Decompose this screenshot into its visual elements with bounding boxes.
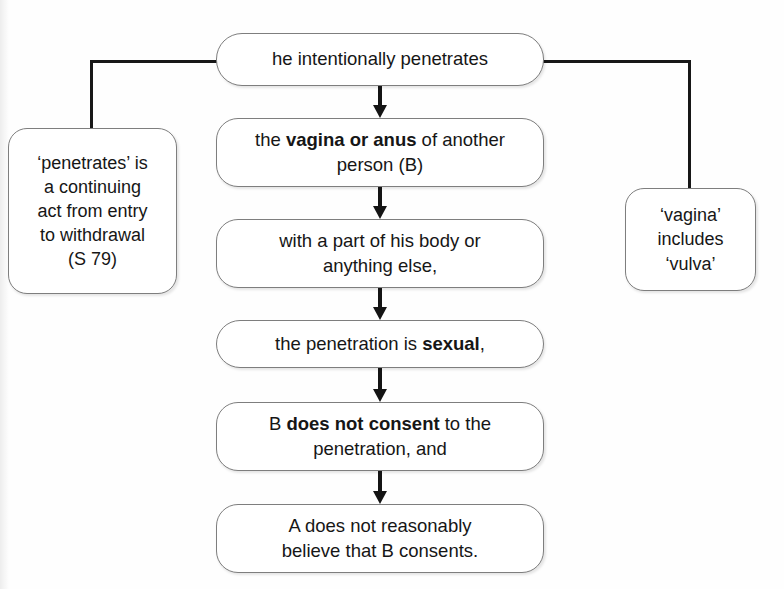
- connector-penetrates-to-right-note-horizontal: [541, 60, 691, 63]
- arrow-shaft: [378, 368, 381, 389]
- note-left-line-1: ‘penetrates’ is: [37, 153, 147, 173]
- node-with-a-part-of-his-body[interactable]: with a part of his body oranything else,: [216, 219, 544, 288]
- node-consent-line1-post: to the: [440, 413, 491, 434]
- note-left-label: ‘penetrates’ isa continuingact from entr…: [19, 151, 166, 272]
- arrow-sexual-to-consent: [373, 368, 387, 402]
- arrow-consent-to-belief: [373, 471, 387, 504]
- arrow-shaft: [378, 288, 381, 307]
- node-consent-line1-bold: does not consent: [286, 413, 439, 434]
- node-penetrates-label: he intentionally penetrates: [227, 47, 533, 71]
- arrow-head-down-icon: [373, 105, 387, 118]
- arrow-shaft: [378, 86, 381, 105]
- note-left-line-5: (S 79): [68, 249, 117, 269]
- note-vagina-includes-vulva[interactable]: ‘vagina’includes‘vulva’: [625, 188, 756, 291]
- note-right-line-3: ‘vulva’: [665, 254, 715, 274]
- node-consent-line1-pre: B: [269, 413, 286, 434]
- clipped-caption-text: [200, 0, 580, 4]
- arrow-penetrates-to-vagina-anus: [373, 86, 387, 118]
- arrow-head-down-icon: [373, 389, 387, 402]
- note-left-line-4: to withdrawal: [40, 225, 145, 245]
- note-left-line-3: act from entry: [37, 201, 147, 221]
- node-vagina-anus-label: the vagina or anus of anotherperson (B): [227, 128, 533, 176]
- node-he-intentionally-penetrates[interactable]: he intentionally penetrates: [216, 33, 544, 86]
- arrow-head-down-icon: [373, 206, 387, 219]
- page-gutter-shadow: [0, 0, 9, 589]
- note-right-line-1: ‘vagina’: [660, 205, 721, 225]
- node-consent-label: B does not consent to thepenetration, an…: [227, 412, 533, 460]
- flowchart-canvas: he intentionally penetrates the vagina o…: [0, 0, 784, 589]
- connector-penetrates-to-right-note-vertical: [688, 60, 691, 190]
- node-body-part-label: with a part of his body oranything else,: [227, 229, 533, 277]
- node-vagina-anus-line1-post: of another: [416, 129, 504, 150]
- note-penetrates-continuing-act[interactable]: ‘penetrates’ isa continuingact from entr…: [8, 128, 177, 294]
- node-consent-line2: penetration, and: [313, 438, 447, 459]
- note-left-line-2: a continuing: [44, 177, 141, 197]
- node-body-part-line1: with a part of his body or: [279, 230, 481, 251]
- arrow-body-part-to-sexual: [373, 288, 387, 320]
- node-sexual-line1-post: ,: [480, 333, 485, 354]
- arrow-head-down-icon: [373, 491, 387, 504]
- node-sexual-line1-pre: the penetration is: [275, 333, 422, 354]
- node-belief-label: A does not reasonablybelieve that B cons…: [227, 514, 533, 562]
- node-belief-line1: A does not reasonably: [288, 515, 471, 536]
- node-a-does-not-reasonably-believe[interactable]: A does not reasonablybelieve that B cons…: [216, 504, 544, 573]
- node-vagina-or-anus-of-another-person[interactable]: the vagina or anus of anotherperson (B): [216, 118, 544, 187]
- node-vagina-anus-line1-bold: vagina or anus: [286, 129, 417, 150]
- node-sexual-label: the penetration is sexual,: [227, 332, 533, 356]
- arrow-head-down-icon: [373, 307, 387, 320]
- connector-penetrates-to-left-note-vertical: [90, 60, 93, 130]
- arrow-shaft: [378, 187, 381, 206]
- node-vagina-anus-line2: person (B): [337, 154, 423, 175]
- note-right-label: ‘vagina’includes‘vulva’: [636, 203, 745, 275]
- node-penetration-is-sexual[interactable]: the penetration is sexual,: [216, 320, 544, 368]
- note-right-line-2: includes: [657, 229, 723, 249]
- node-body-part-line2: anything else,: [323, 255, 437, 276]
- arrow-vagina-anus-to-body-part: [373, 187, 387, 219]
- connector-penetrates-to-left-note-horizontal: [90, 60, 218, 63]
- node-b-does-not-consent[interactable]: B does not consent to thepenetration, an…: [216, 402, 544, 471]
- arrow-shaft: [378, 471, 381, 491]
- node-vagina-anus-line1-pre: the: [255, 129, 286, 150]
- node-belief-line2: believe that B consents.: [282, 540, 478, 561]
- node-sexual-line1-bold: sexual: [422, 333, 480, 354]
